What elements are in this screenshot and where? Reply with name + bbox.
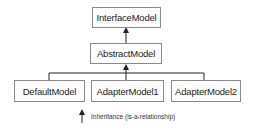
node-adapter-model-2: AdapterModel2 [171, 80, 241, 102]
node-interface-model: InterfaceModel [92, 7, 161, 28]
arrowhead-icon [123, 64, 129, 70]
arrow-up-icon [79, 109, 85, 115]
node-abstract-model: AbstractModel [90, 43, 162, 64]
node-adapter-model-1: AdapterModel1 [91, 80, 164, 102]
node-default-model: DefaultModel [14, 80, 85, 102]
legend-label: Inheritance (is-a-relationship) [91, 113, 175, 120]
